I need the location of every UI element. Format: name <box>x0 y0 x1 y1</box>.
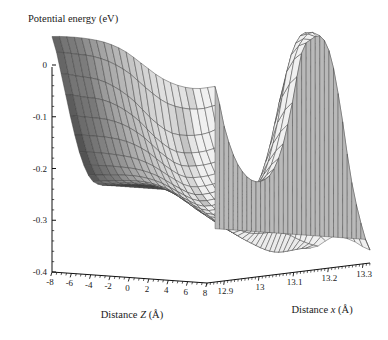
svg-text:12.9: 12.9 <box>217 286 233 296</box>
svg-text:-4: -4 <box>85 280 93 290</box>
svg-text:8: 8 <box>203 288 208 298</box>
surface-skirt-facet <box>233 155 238 230</box>
surface-skirt-facet <box>279 143 284 233</box>
svg-text:-0.3: -0.3 <box>33 215 48 225</box>
surface-skirt-facet <box>306 40 311 236</box>
surface-skirt-facet <box>320 36 325 237</box>
surface-skirt-facet <box>283 124 288 234</box>
surface-skirt-facet <box>224 126 229 229</box>
surface-skirt-facet <box>247 177 252 231</box>
z-axis-label: Distance Z (Å) <box>101 309 164 321</box>
surface-skirt-facet <box>311 37 316 236</box>
svg-text:4: 4 <box>164 285 169 295</box>
surface-skirt-facet <box>265 176 270 233</box>
surface-skirt-facet <box>288 102 293 234</box>
surface-skirt-facet <box>251 180 256 231</box>
surface-skirt-facet <box>334 68 339 237</box>
svg-text:2: 2 <box>145 284 150 294</box>
svg-text:13.3: 13.3 <box>356 269 372 279</box>
svg-text:-0.4: -0.4 <box>33 267 48 277</box>
svg-text:0: 0 <box>125 283 130 293</box>
plot-title: Potential energy (eV) <box>28 13 119 25</box>
surface-skirt-facet <box>297 53 302 235</box>
svg-text:13.1: 13.1 <box>287 277 303 287</box>
svg-text:-0.2: -0.2 <box>33 164 47 174</box>
svg-text:0: 0 <box>43 60 48 70</box>
surface-skirt-facet <box>302 43 307 235</box>
svg-text:-0.1: -0.1 <box>33 112 47 122</box>
surface-skirt-facet <box>270 169 275 233</box>
surface-skirt-facet <box>324 41 329 237</box>
surface-skirt-facet <box>242 172 247 231</box>
x-axis-label: Distance x (Å) <box>291 304 353 316</box>
svg-text:-6: -6 <box>66 278 74 288</box>
svg-text:13: 13 <box>256 282 266 292</box>
surface-skirt-facet <box>238 165 243 231</box>
surface-skirt-facet <box>274 158 279 233</box>
surface-skirt-facet <box>315 36 320 236</box>
svg-text:-8: -8 <box>46 277 54 287</box>
figure-root: Potential energy (eV) 0-0.1-0.2-0.3-0.4 … <box>0 0 388 340</box>
surface-skirt-facet <box>229 142 234 230</box>
surface-plot-svg: Potential energy (eV) 0-0.1-0.2-0.3-0.4 … <box>0 0 388 340</box>
svg-text:6: 6 <box>183 287 188 297</box>
svg-text:-2: -2 <box>104 281 112 291</box>
surface-skirt-facet <box>215 86 220 229</box>
surface-skirt-facet <box>293 76 298 234</box>
svg-text:13.2: 13.2 <box>322 273 338 283</box>
surface-skirt-facet <box>220 104 225 229</box>
surface-skirt-facet <box>329 51 334 237</box>
surface-skirt-facet <box>256 182 261 232</box>
surface-skirt-facet <box>261 179 266 232</box>
